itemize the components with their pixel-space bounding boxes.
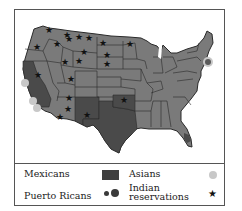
svg-text:★: ★ — [61, 57, 69, 67]
map-figure: ★ ★ ★ ★ ★ ★ ★ ★ ★ ★ ★ ★ ★ ★ ★ ★ ★ ★ ★ ★ … — [14, 9, 225, 206]
svg-text:★: ★ — [85, 33, 93, 43]
legend-label-asians: Asians — [129, 169, 160, 178]
legend-label-reservations: reservations — [129, 192, 189, 201]
puerto-rican-dot-small-icon — [104, 191, 109, 196]
star-icon: ★ — [208, 189, 217, 199]
svg-text:★: ★ — [56, 112, 64, 122]
legend-label-puerto-ricans: Puerto Ricans — [24, 191, 91, 200]
svg-text:★: ★ — [65, 34, 73, 44]
svg-text:★: ★ — [53, 39, 61, 49]
puerto-rican-dot-large-icon — [111, 189, 119, 197]
mexicans-swatch — [102, 170, 119, 180]
svg-text:★: ★ — [126, 39, 134, 49]
svg-text:★: ★ — [99, 38, 107, 48]
svg-text:★: ★ — [65, 93, 73, 103]
svg-text:★: ★ — [103, 59, 111, 69]
puerto-rican-dot-ny — [205, 59, 211, 65]
svg-text:★: ★ — [45, 25, 53, 35]
svg-text:★: ★ — [33, 42, 41, 52]
svg-text:★: ★ — [75, 56, 83, 66]
svg-text:★: ★ — [34, 70, 42, 80]
svg-text:★: ★ — [120, 95, 128, 105]
legend: Mexicans Asians Puerto Ricans Indian res… — [15, 163, 224, 206]
legend-label-mexicans: Mexicans — [24, 169, 70, 178]
asian-circle-icon — [209, 171, 217, 179]
svg-text:★: ★ — [67, 74, 75, 84]
svg-text:★: ★ — [83, 110, 91, 120]
svg-text:★: ★ — [64, 104, 72, 114]
svg-text:★: ★ — [75, 32, 83, 42]
asian-dot-sd — [33, 104, 41, 112]
asian-dot-sf — [21, 79, 29, 87]
us-map: ★ ★ ★ ★ ★ ★ ★ ★ ★ ★ ★ ★ ★ ★ ★ ★ ★ ★ ★ ★ … — [15, 10, 224, 163]
asian-dot-la — [29, 97, 37, 105]
